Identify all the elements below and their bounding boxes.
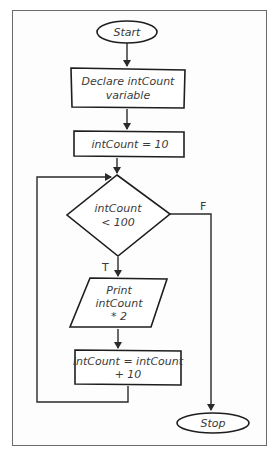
start-label: Start xyxy=(114,26,142,39)
print-label-line2: intCount xyxy=(95,297,143,310)
declare-label-line2: variable xyxy=(106,89,151,102)
increment-label-line2: + 10 xyxy=(115,368,142,381)
true-branch-label: T xyxy=(101,261,109,274)
flowchart-canvas: F T Start Declare intCount variable intC… xyxy=(0,0,276,458)
declare-label-line1: Declare intCount xyxy=(82,75,176,88)
print-label-line1: Print xyxy=(106,284,132,297)
condition-label-line1: intCount xyxy=(94,202,142,215)
condition-node: intCount < 100 xyxy=(67,175,170,256)
false-branch-label: F xyxy=(200,200,206,213)
init-label: intCount = 10 xyxy=(91,138,168,151)
declare-node: Declare intCount variable xyxy=(71,68,185,108)
init-node: intCount = 10 xyxy=(74,131,184,157)
print-label-line3: * 2 xyxy=(111,310,127,323)
print-node: Print intCount * 2 xyxy=(70,278,167,327)
condition-label-line2: < 100 xyxy=(101,216,135,229)
stop-label: Stop xyxy=(200,417,225,430)
increment-label-line1: intCount = intCount xyxy=(73,355,184,368)
increment-node: intCount = intCount + 10 xyxy=(73,350,184,385)
start-node: Start xyxy=(97,21,157,43)
stop-node: Stop xyxy=(177,413,249,433)
